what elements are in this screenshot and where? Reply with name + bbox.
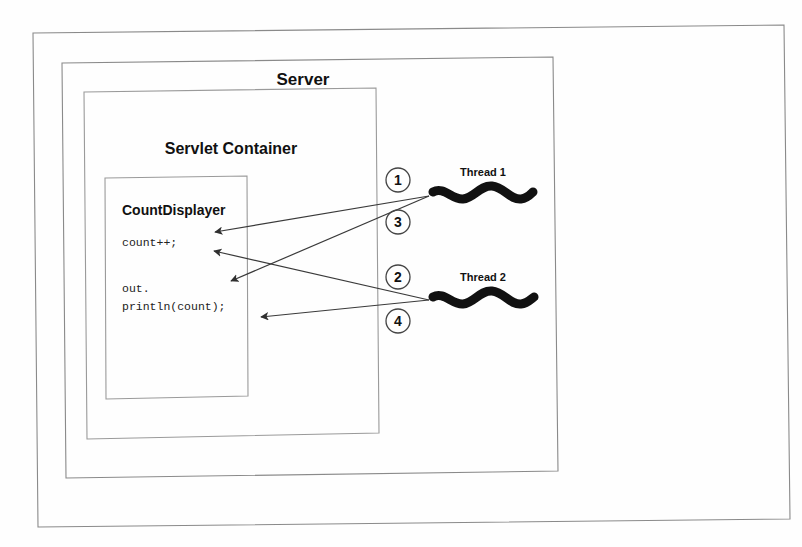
servlet-container-label: Servlet Container xyxy=(165,140,297,157)
thread-1-label: Thread 1 xyxy=(460,166,506,178)
code-line-count-increment: count++; xyxy=(122,236,177,249)
server-box xyxy=(62,57,558,478)
step-number-1: 1 xyxy=(394,172,402,188)
thread-2-label: Thread 2 xyxy=(460,271,506,283)
count-displayer-label: CountDisplayer xyxy=(122,202,226,218)
code-line-out: out. xyxy=(122,282,150,295)
outer-frame-box xyxy=(33,25,790,527)
diagram-canvas: Server Servlet Container CountDisplayer … xyxy=(0,0,802,547)
thread-1-squiggle-icon xyxy=(433,186,533,199)
thread-2-squiggle-icon xyxy=(433,291,534,304)
code-line-println: println(count); xyxy=(122,300,226,313)
server-label: Server xyxy=(277,70,330,89)
step-number-3: 3 xyxy=(394,214,402,230)
step-number-2: 2 xyxy=(394,269,402,285)
step-number-4: 4 xyxy=(394,313,402,329)
arrow-step-4 xyxy=(261,300,429,317)
diagram-page: Server Servlet Container CountDisplayer … xyxy=(0,0,802,547)
